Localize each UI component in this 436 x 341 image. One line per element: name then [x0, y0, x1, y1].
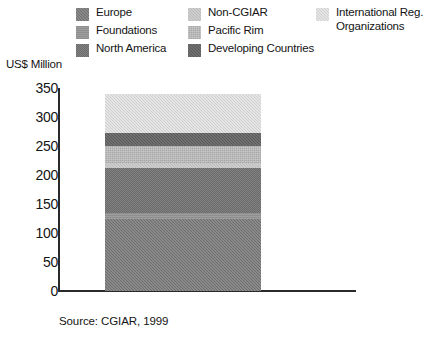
legend-item-label: North America [96, 42, 166, 56]
y-axis-tick-labels: 350300250200150100500 [14, 82, 58, 297]
y-axis-tick-label: 150 [16, 197, 58, 211]
chart-legend: EuropeFoundationsNorth America Non-CGIAR… [0, 6, 436, 72]
legend-item-label: Foundations [96, 24, 157, 38]
legend-swatch-icon [316, 8, 329, 21]
stacked-bar [105, 94, 261, 291]
legend-item-label: Non-CGIAR [208, 6, 268, 20]
bar-segment[interactable] [105, 133, 261, 146]
legend-column-3: International Reg. Organizations [316, 6, 423, 36]
legend-item[interactable]: Developing Countries [188, 42, 314, 57]
bar-segment[interactable] [105, 213, 261, 219]
legend-item-label: Developing Countries [208, 42, 314, 56]
plot-area [59, 88, 356, 291]
y-axis-tick-label: 0 [16, 284, 58, 298]
legend-item[interactable]: Pacific Rim [188, 24, 314, 39]
legend-item-label: Pacific Rim [208, 24, 263, 38]
bar-segment[interactable] [105, 146, 261, 163]
legend-swatch-icon [188, 26, 201, 39]
legend-swatch-icon [76, 8, 89, 21]
legend-swatch-icon [76, 26, 89, 39]
legend-column-2: Non-CGIARPacific RimDeveloping Countries [188, 6, 314, 60]
stacked-bar-chart: EuropeFoundationsNorth America Non-CGIAR… [0, 0, 436, 341]
bar-segment[interactable] [105, 168, 261, 213]
y-axis-tick-label: 300 [16, 110, 58, 124]
legend-item[interactable]: North America [76, 42, 166, 57]
legend-swatch-icon [188, 8, 201, 21]
bar-segment[interactable] [105, 163, 261, 168]
bar-segment[interactable] [105, 219, 261, 291]
y-axis-tick-label: 100 [16, 226, 58, 240]
legend-item[interactable]: Foundations [76, 24, 166, 39]
y-axis-tick-label: 50 [16, 255, 58, 269]
y-axis-tick-label: 250 [16, 139, 58, 153]
y-axis-title: US$ Million [6, 58, 62, 70]
legend-item-label: Europe [96, 6, 132, 20]
y-axis-tick-label: 200 [16, 168, 58, 182]
y-axis-tick-label: 350 [16, 81, 58, 95]
legend-item[interactable]: Non-CGIAR [188, 6, 314, 21]
legend-item[interactable]: International Reg. Organizations [316, 6, 423, 33]
legend-item[interactable]: Europe [76, 6, 166, 21]
legend-swatch-icon [188, 44, 201, 57]
bar-segment[interactable] [105, 94, 261, 133]
legend-swatch-icon [76, 44, 89, 57]
source-note: Source: CGIAR, 1999 [59, 315, 168, 327]
legend-item-label: International Reg. Organizations [336, 6, 423, 33]
legend-column-1: EuropeFoundationsNorth America [76, 6, 166, 60]
